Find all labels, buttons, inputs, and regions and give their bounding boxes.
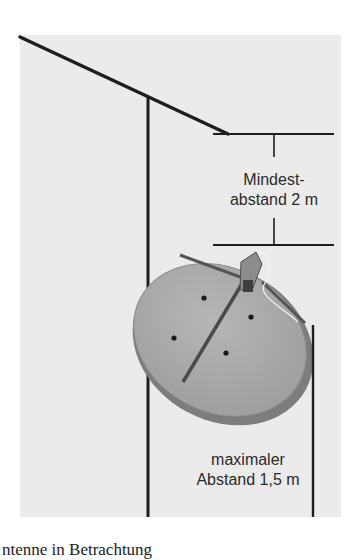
figure-caption: ntenne in Betrachtung <box>2 540 152 560</box>
max-distance-line1: maximaler <box>178 450 318 470</box>
max-distance-label: maximaler Abstand 1,5 m <box>178 450 318 490</box>
max-distance-line2: Abstand 1,5 m <box>178 470 318 490</box>
min-distance-label: Mindest- abstand 2 m <box>214 170 334 210</box>
min-distance-line2: abstand 2 m <box>214 190 334 210</box>
min-distance-line1: Mindest- <box>214 170 334 190</box>
